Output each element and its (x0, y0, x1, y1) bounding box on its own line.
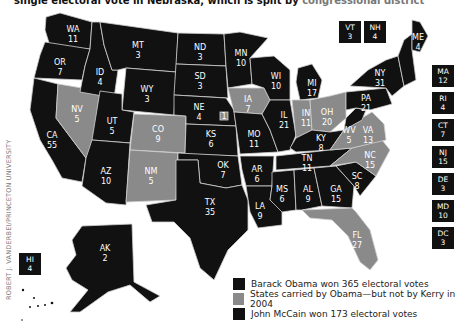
label-OR-abbr: OR (54, 58, 66, 67)
label-CO-abbr: CO (152, 125, 164, 134)
label-TN-abbr: TN (301, 154, 313, 163)
label-SD-abbr: SD (194, 72, 205, 81)
label-NV-abbr: NV (71, 105, 83, 114)
label-UT-abbr: UT (107, 117, 118, 126)
label-LA-abbr: LA (255, 202, 266, 211)
label-AL-abbr: AL (303, 185, 313, 194)
box-VT-abbr: VT (339, 23, 361, 32)
label-TX-ev: 35 (205, 208, 215, 217)
label-NY-abbr: NY (375, 69, 386, 78)
label-VA-abbr: VA (363, 126, 374, 135)
box-NJ-ev: 15 (432, 157, 454, 166)
label-IN-abbr: IN (302, 109, 310, 118)
state-FL (302, 208, 378, 270)
label-MI-abbr: MI (307, 79, 316, 88)
label-GA-ev: 15 (331, 195, 341, 204)
label-WY-ev: 3 (144, 95, 149, 104)
box-NJ-abbr: NJ (432, 148, 454, 157)
box-HI-abbr: HI (19, 255, 41, 264)
box-CT-ev: 7 (432, 130, 454, 139)
label-NE-ev: 4 (196, 113, 201, 122)
label-NC-ev: 15 (365, 161, 375, 170)
label-VA-ev: 13 (363, 136, 373, 145)
label-SD-ev: 3 (197, 82, 202, 91)
label-IN-ev: 11 (301, 119, 311, 128)
label-MS-abbr: MS (276, 185, 288, 194)
label-OH-abbr: OH (321, 108, 333, 117)
legend-item-flipped: States carried by Obama—but not by Kerry… (233, 291, 464, 306)
box-DC-abbr: DC (432, 229, 454, 238)
label-NC-abbr: NC (364, 151, 376, 160)
label-WY-abbr: WY (141, 85, 154, 94)
box-VT: VT3 (339, 21, 361, 43)
box-DE-abbr: DE (432, 175, 454, 184)
label-ID-ev: 4 (97, 78, 102, 87)
map-legend: Barack Obama won 365 electoral votes Sta… (233, 276, 464, 321)
box-RI-abbr: RI (432, 94, 454, 103)
label-MO-abbr: MO (247, 130, 260, 139)
box-DE-ev: 3 (432, 184, 454, 193)
label-NM-ev: 5 (148, 177, 153, 186)
label-OK-abbr: OK (217, 161, 229, 170)
label-KS-abbr: KS (206, 130, 216, 139)
aleutian-islands (21, 289, 53, 321)
box-VT-ev: 3 (339, 32, 361, 41)
box-NH: NH4 (364, 21, 386, 43)
label-FL-ev: 27 (352, 241, 362, 250)
box-RI: RI4 (432, 92, 454, 114)
label-MO-ev: 11 (249, 140, 259, 149)
label-NE-abbr: NE (193, 103, 204, 112)
label-IA-abbr: IA (244, 95, 252, 104)
label-FL-abbr: FL (352, 231, 362, 240)
legend-label-obama: Barack Obama won 365 electoral votes (251, 279, 429, 289)
label-WA-abbr: WA (67, 25, 80, 34)
legend-swatch-mccain (233, 308, 245, 320)
box-MA-abbr: MA (432, 67, 454, 76)
box-MD-ev: 10 (432, 211, 454, 220)
label-SC-abbr: SC (352, 172, 363, 181)
label-PA-abbr: PA (361, 94, 371, 103)
label-IL-abbr: IL (281, 111, 288, 120)
label-AR-ev: 6 (254, 175, 259, 184)
box-HI: HI4 (19, 253, 41, 275)
label-SC-ev: 8 (354, 182, 359, 191)
label-OH-ev: 20 (322, 118, 332, 127)
label-KY-abbr: KY (316, 134, 326, 143)
label-CA-ev: 55 (47, 141, 57, 150)
box-HI-ev: 4 (19, 264, 41, 273)
label-NV-ev: 5 (74, 115, 79, 124)
label-KY-ev: 8 (318, 144, 323, 153)
label-MI-ev: 17 (307, 89, 317, 98)
photo-credit: ROBERT J. VANDERBEI/PRINCETON UNIVERSITY (5, 140, 13, 300)
box-NH-abbr: NH (364, 23, 386, 32)
box-CT: CT7 (432, 119, 454, 141)
label-OR-ev: 7 (57, 68, 62, 77)
label-WI-abbr: WI (271, 72, 281, 81)
label-AK-abbr: AK (100, 244, 111, 253)
label-MN-abbr: MN (235, 49, 248, 58)
label-NY-ev: 31 (375, 79, 385, 88)
label-AK-ev: 2 (102, 254, 107, 263)
label-ME-ev: 4 (415, 43, 420, 52)
label-AL-ev: 9 (305, 195, 310, 204)
box-MD: MD10 (432, 200, 454, 222)
box-DE: DE3 (432, 173, 454, 195)
label-PA-ev: 21 (361, 104, 371, 113)
label-AR-abbr: AR (251, 165, 262, 174)
label-WA-ev: 11 (68, 35, 78, 44)
label-ME-abbr: ME (412, 33, 424, 42)
state-SD (174, 64, 228, 98)
label-TN-ev: 11 (302, 164, 312, 173)
box-DC: DC3 (432, 227, 454, 249)
label-WI-ev: 10 (271, 82, 281, 91)
legend-swatch-flipped (233, 293, 244, 305)
box-RI-ev: 4 (432, 103, 454, 112)
label-GA-abbr: GA (330, 185, 342, 194)
label-AZ-abbr: AZ (101, 167, 112, 176)
box-NH-ev: 4 (364, 32, 386, 41)
label-ID-abbr: ID (96, 68, 105, 77)
box-CT-abbr: CT (432, 121, 454, 130)
box-NJ: NJ15 (432, 146, 454, 168)
label-OK-ev: 7 (220, 171, 225, 180)
label-ND-ev: 3 (197, 53, 202, 62)
